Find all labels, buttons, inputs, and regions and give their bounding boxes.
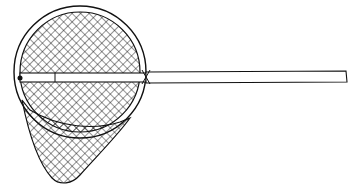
crossbar	[20, 73, 146, 82]
handle	[146, 71, 347, 83]
hoop-mesh	[20, 12, 140, 132]
landing-net-illustration	[0, 0, 352, 192]
crossbar-end	[18, 76, 23, 81]
